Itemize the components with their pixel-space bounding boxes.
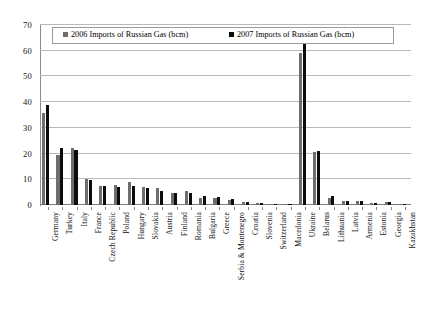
bar-group [355,25,369,205]
bar [189,193,192,205]
bar-group [155,25,169,205]
x-axis-tick [276,207,277,210]
bar [185,191,188,205]
x-axis-tick-label: Kazakhstan [408,212,417,248]
x-axis-tick-label: Greece [222,212,231,234]
bar-group [369,25,383,205]
bar [385,202,388,205]
bar-group [98,25,112,205]
x-axis-tick [119,207,120,210]
bar-group [227,25,241,205]
bar-group [383,25,397,205]
x-axis-tick-label: Belarus [322,212,331,236]
bar [328,198,331,205]
bar-group [312,25,326,205]
bar-series-container [40,25,411,205]
bar [171,193,174,205]
x-axis-tick-label: Switzerland [279,212,288,249]
bar-group [284,25,298,205]
bar [285,204,288,205]
bar [228,200,231,205]
bar [246,202,249,205]
bar [374,203,377,205]
bar [85,179,88,205]
x-axis-tick-label: Germany [51,212,60,241]
bar [117,187,120,206]
x-axis-tick [291,207,292,210]
x-axis-tick-label: Austria [165,212,174,235]
bar [360,201,363,205]
bar [274,204,277,205]
bar-group [241,25,255,205]
bar [256,203,259,205]
legend-swatch-icon-2007 [229,32,234,37]
bar [331,196,334,205]
x-axis-tick [376,207,377,210]
bar [399,204,402,205]
y-axis-labels: 010203040506070 [0,25,36,205]
bar [71,148,74,205]
x-axis-tick-label: Macedonia [294,212,303,247]
bar [217,197,220,205]
bar [74,150,77,205]
bar [242,202,245,205]
x-axis-tick [319,207,320,210]
bar-group [326,25,340,205]
bar-group [41,25,55,205]
bar-group [269,25,283,205]
x-axis-tick [219,207,220,210]
bar-group [127,25,141,205]
bar [346,201,349,205]
x-axis-tick-label: Georgia [394,212,403,237]
bar [403,204,406,205]
bar [146,188,149,205]
x-axis-tick [62,207,63,210]
bar [99,186,102,205]
x-axis-tick [162,207,163,210]
bar [313,152,316,205]
bar-group [112,25,126,205]
x-axis-tick-label: Slovakia [151,212,160,239]
x-axis-tick [134,207,135,210]
bar [199,198,202,205]
bar [60,148,63,205]
bar [270,204,273,205]
bar-group [55,25,69,205]
x-axis-tick [77,207,78,210]
bar-group [298,25,312,205]
x-axis-tick-label: Armenia [365,212,374,239]
x-axis-tick [205,207,206,210]
x-axis-tick-label: Poland [122,212,131,234]
bar [388,202,391,205]
bar-group [70,25,84,205]
x-axis-tick-label: France [94,212,103,233]
x-axis-tick-label: Estonia [379,212,388,235]
y-axis-tick-label: 70 [23,20,32,30]
bar [288,204,291,205]
bar [142,187,145,205]
bar-group [398,25,412,205]
bar [103,186,106,205]
bar-group [341,25,355,205]
y-axis-tick-label: 50 [23,71,32,81]
legend-label-2007: 2007 Imports of Russian Gas (bcm) [237,30,354,39]
x-axis-tick [191,207,192,210]
x-axis-tick-label: Czech Republic [108,212,117,262]
y-axis-tick-label: 60 [23,46,32,56]
bar [317,151,320,205]
y-axis-tick-label: 20 [23,149,32,159]
x-axis-tick [48,207,49,210]
bar-group [255,25,269,205]
x-axis-tick-label: Croatia [251,212,260,235]
x-axis-tick [234,207,235,210]
x-axis-tick [391,207,392,210]
x-axis-tick [248,207,249,210]
bar [299,53,302,205]
bar [174,193,177,205]
x-axis-tick-label: Hungary [137,212,146,239]
x-axis-tick [348,207,349,210]
x-axis-tick [305,207,306,210]
chart-legend: 2006 Imports of Russian Gas (bcm) 2007 I… [52,27,394,44]
x-axis-tick [91,207,92,210]
x-axis-tick-label: Serbia & Montenegro [237,212,246,280]
